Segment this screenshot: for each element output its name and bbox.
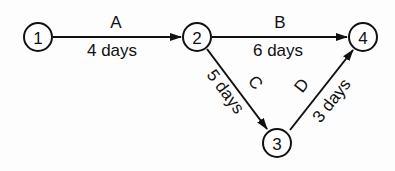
edge-a-duration: 4 days [87, 41, 137, 60]
node-1-label: 1 [33, 29, 42, 48]
edge-c: C 5 days [203, 49, 267, 129]
node-4-label: 4 [358, 29, 367, 48]
node-3-label: 3 [272, 135, 281, 154]
edge-a-activity: A [110, 13, 122, 32]
edge-a: A 4 days [53, 13, 181, 60]
node-3: 3 [263, 129, 291, 157]
edge-b: B 6 days [212, 13, 347, 60]
edge-b-duration: 6 days [253, 41, 303, 60]
edge-c-activity: C [244, 72, 267, 93]
node-4: 4 [349, 23, 377, 51]
node-1: 1 [24, 23, 52, 51]
node-2-label: 2 [192, 29, 201, 48]
edge-d-duration: 3 days [309, 75, 355, 126]
edge-b-activity: B [274, 13, 285, 32]
network-diagram: A 4 days B 6 days C 5 days D 3 days 1 2 … [0, 0, 395, 171]
edge-d: D 3 days [290, 50, 355, 130]
edge-d-activity: D [290, 75, 313, 96]
node-2: 2 [183, 23, 211, 51]
